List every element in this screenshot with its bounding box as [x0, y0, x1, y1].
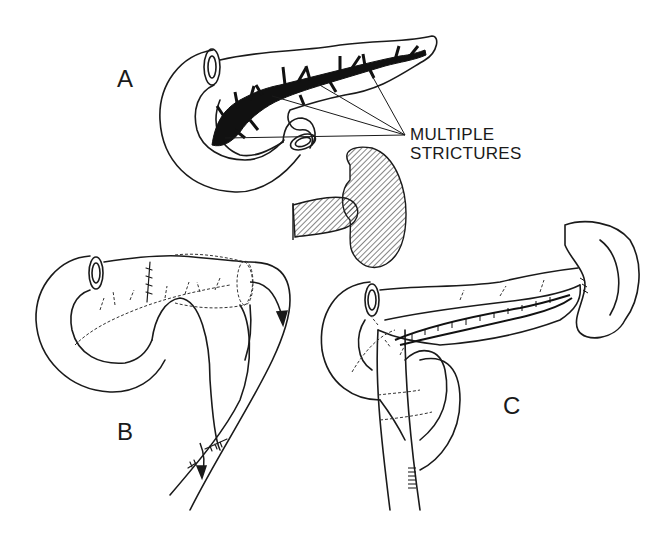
spleen-inset [293, 147, 406, 267]
figure-canvas: A B C MULTIPLE STRICTURES [0, 0, 656, 533]
panel-label-b: B [117, 418, 133, 446]
callout-line-1: MULTIPLE [410, 125, 522, 144]
callout-line-2: STRICTURES [410, 144, 522, 163]
panel-c-anastomosis [395, 278, 588, 488]
panel-label-c: C [503, 392, 520, 420]
panel-b-dashed [75, 254, 253, 345]
illustration [0, 0, 656, 533]
dilated-duct [212, 46, 426, 146]
callout-multiple-strictures: MULTIPLE STRICTURES [410, 125, 522, 163]
panel-label-a: A [117, 65, 133, 93]
